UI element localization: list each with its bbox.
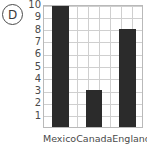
x-axis-tick-label: Canada [76, 131, 112, 147]
bar-mexico [52, 5, 69, 127]
bar-england [119, 29, 136, 127]
figure-label-badge: D [2, 4, 23, 25]
y-axis-tick-label: 7 [22, 37, 41, 47]
bar-canada [86, 90, 103, 127]
y-axis-tick-label: 5 [22, 62, 41, 72]
figure-label-letter: D [8, 9, 17, 21]
y-axis-tick-label: 1 [22, 111, 41, 121]
gridline-vertical [77, 6, 78, 127]
y-axis-tick-label: 2 [22, 98, 41, 108]
gridline-vertical [110, 6, 111, 127]
x-axis-category-labels: MexicoCanadaEngland [43, 131, 147, 147]
y-axis-tick-labels: 10987654321 [22, 5, 41, 128]
x-axis-tick-label: Mexico [43, 131, 76, 147]
y-axis-tick-label: 8 [22, 25, 41, 35]
y-axis-tick-label: 10 [22, 0, 41, 10]
y-axis-tick-label: 4 [22, 74, 41, 84]
y-axis-tick-label: 9 [22, 12, 41, 22]
x-axis-tick-label: England [112, 131, 147, 147]
chart-figure: D 10987654321 MexicoCanadaEngland [0, 0, 147, 150]
y-axis-tick-label: 3 [22, 86, 41, 96]
plot-area [43, 5, 143, 128]
y-axis-tick-label: 6 [22, 49, 41, 59]
